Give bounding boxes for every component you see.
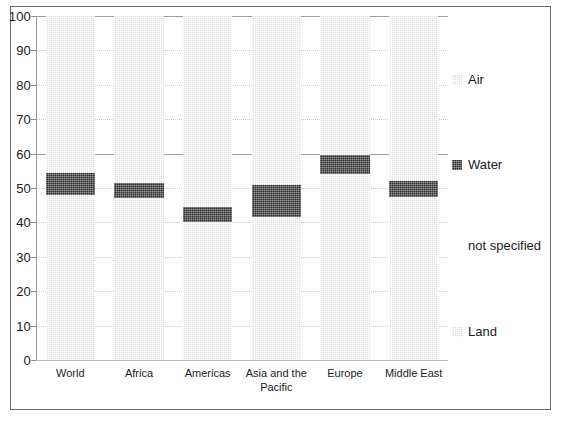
legend-swatch-icon xyxy=(452,160,462,170)
y-axis-tick-label: 40 xyxy=(16,215,31,230)
legend-label: Water xyxy=(468,157,502,172)
x-axis-category-label: Middle East xyxy=(373,366,454,380)
legend-label: Air xyxy=(468,72,484,87)
y-axis-tick-label: 50 xyxy=(16,181,31,196)
bar-segment-land-air xyxy=(183,16,232,360)
bar-column[interactable] xyxy=(252,16,301,360)
bar-segment-water xyxy=(183,207,232,222)
legend-item[interactable]: Land xyxy=(452,324,497,339)
y-axis-tick-label: 20 xyxy=(16,284,31,299)
chart-root: 1009080706050403020100 WorldAfricaAmeric… xyxy=(0,0,563,421)
y-axis-tick-label: 10 xyxy=(16,318,31,333)
legend-label: not specified xyxy=(468,238,541,253)
bar-column[interactable] xyxy=(46,16,95,360)
x-axis-labels: WorldAfricaAmericasAsia and the PacificE… xyxy=(36,366,448,410)
y-axis-tick-label: 80 xyxy=(16,77,31,92)
bar-segment-water xyxy=(320,155,369,174)
bar-segment-land-air xyxy=(320,16,369,360)
legend-item[interactable]: not specified xyxy=(452,238,541,253)
bar-column[interactable] xyxy=(114,16,163,360)
y-axis-labels: 1009080706050403020100 xyxy=(0,16,31,360)
bar-segment-water xyxy=(46,173,95,195)
x-axis-line xyxy=(36,360,448,361)
bar-segment-water xyxy=(252,185,301,218)
y-axis-tick-label: 100 xyxy=(9,9,31,24)
legend-swatch-icon xyxy=(452,241,462,251)
bar-column[interactable] xyxy=(320,16,369,360)
bar-segment-water xyxy=(389,181,438,196)
legend-label: Land xyxy=(468,324,497,339)
chart-legend: AirWaternot specifiedLand xyxy=(452,16,548,360)
bar-column[interactable] xyxy=(183,16,232,360)
bar-column[interactable] xyxy=(389,16,438,360)
y-axis-tick-label: 30 xyxy=(16,249,31,264)
legend-item[interactable]: Air xyxy=(452,72,484,87)
y-axis-tick-label: 60 xyxy=(16,146,31,161)
bars-layer xyxy=(36,16,448,360)
legend-swatch-icon xyxy=(452,327,462,337)
bar-segment-water xyxy=(114,183,163,198)
y-axis-tick-label: 90 xyxy=(16,43,31,58)
y-axis-tick-label: 70 xyxy=(16,112,31,127)
legend-item[interactable]: Water xyxy=(452,157,502,172)
legend-swatch-icon xyxy=(452,75,462,85)
